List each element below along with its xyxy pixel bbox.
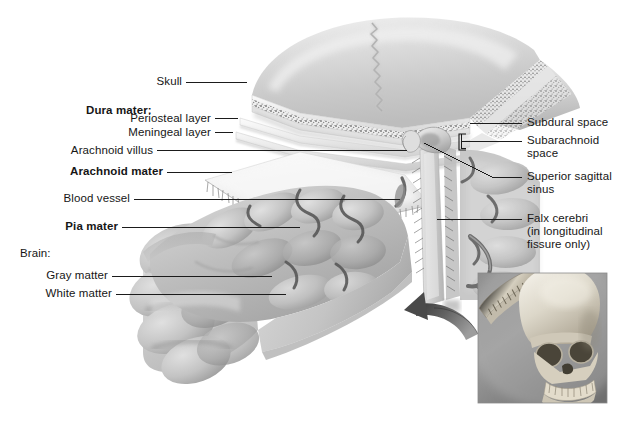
label-falx-cerebri-line3: fissure only) xyxy=(527,238,590,250)
figure-canvas: Skull Dura mater: Periosteal layer Menin… xyxy=(0,0,631,427)
label-brain: Brain: xyxy=(20,247,51,260)
inset-nasal-aperture xyxy=(562,364,573,375)
label-arachnoid-mater: Arachnoid mater xyxy=(26,165,163,178)
label-superior-sagittal-sinus: Superior sagittal sinus xyxy=(527,170,612,196)
label-superior-sagittal-sinus-line2: sinus xyxy=(527,183,554,195)
label-gray-matter: Gray matter xyxy=(20,269,108,282)
label-subarachnoid-space-line2: space xyxy=(527,147,558,159)
label-white-matter: White matter xyxy=(20,287,112,300)
label-subarachnoid-space-line1: Subarachnoid xyxy=(527,134,599,146)
label-periosteal-layer: Periosteal layer xyxy=(86,112,211,125)
label-falx-cerebri: Falx cerebri (in longitudinal fissure on… xyxy=(527,212,603,251)
skull-cap-group xyxy=(252,18,580,150)
skull-inset-group xyxy=(468,252,628,410)
brain-block-group xyxy=(122,182,412,393)
label-subdural-space: Subdural space xyxy=(527,116,608,129)
label-falx-cerebri-line1: Falx cerebri xyxy=(527,212,588,224)
label-skull: Skull xyxy=(86,75,182,88)
label-pia-mater: Pia mater xyxy=(20,220,118,233)
label-blood-vessel: Blood vessel xyxy=(20,192,130,205)
label-meningeal-layer: Meningeal layer xyxy=(86,126,211,139)
label-superior-sagittal-sinus-line1: Superior sagittal xyxy=(527,170,612,182)
label-arachnoid-villus: Arachnoid villus xyxy=(26,144,153,157)
label-falx-cerebri-line2: (in longitudinal xyxy=(527,225,603,237)
label-subarachnoid-space: Subarachnoid space xyxy=(527,134,599,160)
